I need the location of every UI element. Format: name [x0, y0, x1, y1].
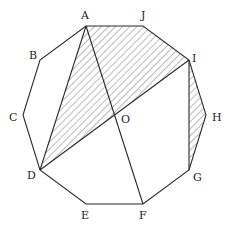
vertex-label-j: J — [140, 9, 145, 22]
vertex-label-e: E — [81, 209, 89, 222]
shaded-region-1 — [40, 26, 189, 170]
shaded-region-2 — [189, 60, 206, 170]
vertex-label-c: C — [9, 111, 17, 124]
decagon-diagram: AJIHGFEDCB O — [0, 0, 228, 228]
vertex-label-g: G — [193, 171, 202, 184]
diagram-canvas: AJIHGFEDCB O — [0, 0, 228, 228]
shaded-regions — [40, 26, 206, 170]
vertex-label-b: B — [29, 49, 37, 62]
vertex-label-i: I — [192, 52, 196, 65]
center-label-o: O — [121, 113, 130, 126]
vertex-label-d: D — [27, 169, 36, 182]
vertex-label-h: H — [212, 111, 222, 124]
vertex-label-f: F — [139, 209, 147, 222]
vertex-label-a: A — [80, 9, 90, 22]
